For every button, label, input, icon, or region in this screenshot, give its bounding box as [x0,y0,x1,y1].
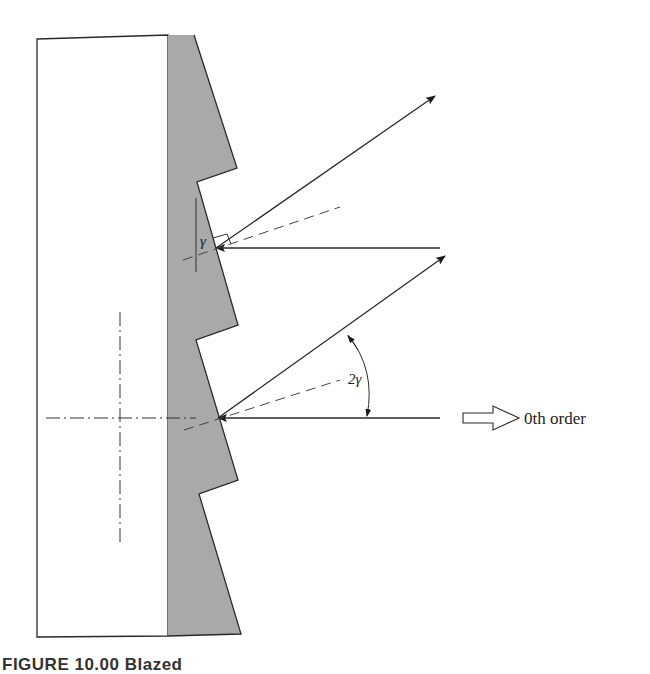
zeroth-order-arrow-icon [463,406,519,430]
two-gamma-label: 2γ [348,371,363,387]
figure-caption: FIGURE 10.00 Blazed [2,655,183,674]
blazed-grating-profile [168,35,241,636]
diffracted-ray-upper [216,96,435,248]
zeroth-order-label: 0th order [524,409,586,428]
angle-arc-2gamma-top [348,336,358,350]
substrate-block [37,35,168,637]
diffracted-ray-lower [218,256,445,418]
